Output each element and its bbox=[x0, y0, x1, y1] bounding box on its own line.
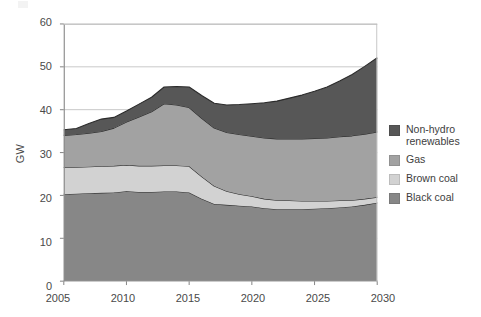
legend-swatch-gas bbox=[389, 155, 400, 166]
chart-figure: 60 50 40 30 20 10 0 GW 2005 2010 2015 20… bbox=[0, 0, 481, 317]
legend-swatch-non-hydro-renewables bbox=[389, 125, 400, 136]
legend-label-gas: Gas bbox=[406, 154, 425, 166]
x-tick-2015: 2015 bbox=[165, 293, 211, 304]
x-tick-2010: 2010 bbox=[100, 293, 146, 304]
x-tick-2020: 2020 bbox=[230, 293, 276, 304]
legend-swatch-black-coal bbox=[389, 193, 400, 204]
chart-legend: Non-hydro renewables Gas Brown coal Blac… bbox=[389, 124, 481, 211]
legend-label-black-coal: Black coal bbox=[406, 192, 454, 204]
legend-swatch-brown-coal bbox=[389, 174, 400, 185]
legend-item-black-coal: Black coal bbox=[389, 192, 481, 204]
legend-item-gas: Gas bbox=[389, 154, 481, 166]
x-tick-2030: 2030 bbox=[360, 293, 406, 304]
legend-item-non-hydro-renewables: Non-hydro renewables bbox=[389, 124, 481, 147]
legend-item-brown-coal: Brown coal bbox=[389, 173, 481, 185]
legend-label-non-hydro-renewables: Non-hydro renewables bbox=[406, 124, 460, 147]
legend-label-brown-coal: Brown coal bbox=[406, 173, 458, 185]
x-tick-2025: 2025 bbox=[295, 293, 341, 304]
x-tick-2005: 2005 bbox=[35, 293, 81, 304]
